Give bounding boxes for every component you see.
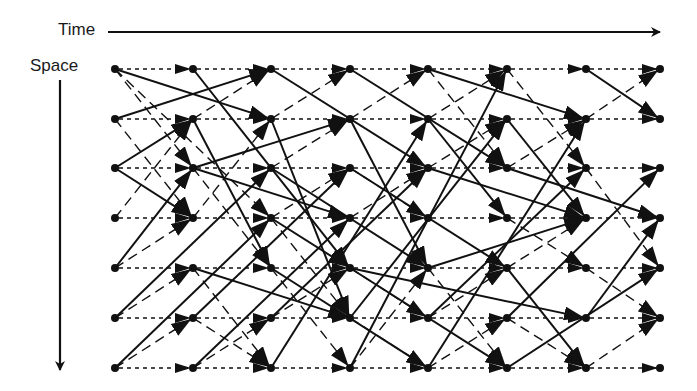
- grid-node: [582, 314, 590, 322]
- grid-node: [582, 115, 590, 123]
- solid-arrow: [271, 218, 347, 266]
- grid-node: [189, 264, 197, 272]
- grid-node: [111, 364, 119, 372]
- grid-node: [582, 264, 590, 272]
- grid-node: [503, 65, 511, 73]
- dashed-arrow: [428, 270, 504, 318]
- solid-arrow: [115, 170, 191, 268]
- dashed-arrow: [271, 170, 347, 218]
- grid-node: [189, 65, 197, 73]
- dashed-arrow: [115, 320, 190, 368]
- grid-node: [582, 214, 590, 222]
- grid-node: [656, 264, 664, 272]
- solid-arrow: [507, 268, 584, 366]
- dashed-arrow: [350, 270, 426, 368]
- grid-node: [346, 314, 354, 322]
- dashed-arrow: [193, 71, 268, 119]
- grid-node: [346, 65, 354, 73]
- grid-node: [111, 314, 119, 322]
- grid-node: [111, 264, 119, 272]
- solid-arrow: [115, 220, 269, 368]
- solid-arrow: [271, 119, 349, 315]
- grid-node: [503, 264, 511, 272]
- grid-node: [111, 115, 119, 123]
- solid-arrow: [428, 69, 583, 118]
- dashed-arrow: [193, 320, 268, 368]
- grid-node: [267, 264, 275, 272]
- grid-node: [656, 214, 664, 222]
- dashed-arrow: [350, 71, 425, 119]
- grid-node: [424, 364, 432, 372]
- solid-arrow: [115, 121, 190, 168]
- dashed-arrow: [507, 121, 583, 168]
- grid-node: [503, 164, 511, 172]
- grid-node: [346, 364, 354, 372]
- dashed-arrow: [115, 69, 269, 216]
- solid-arrow: [586, 220, 658, 318]
- dashed-arrow: [193, 121, 269, 218]
- solid-arrow: [350, 268, 583, 317]
- grid-node: [189, 214, 197, 222]
- dashed-arrow: [507, 69, 584, 166]
- grid-node: [424, 314, 432, 322]
- dashed-arrow: [586, 71, 658, 119]
- dashed-arrow: [193, 318, 268, 366]
- grid-node: [656, 364, 664, 372]
- grid-node: [424, 65, 432, 73]
- dashed-arrow: [428, 69, 505, 166]
- grid-node: [111, 214, 119, 222]
- solid-arrow: [193, 268, 347, 317]
- dashed-arrow: [115, 121, 191, 218]
- dashed-arrow: [271, 121, 347, 168]
- grid-node: [189, 364, 197, 372]
- grid-node: [424, 164, 432, 172]
- grid-node: [503, 314, 511, 322]
- grid-node: [267, 314, 275, 322]
- grid-node: [656, 314, 664, 322]
- grid-node: [346, 115, 354, 123]
- grid-node: [267, 214, 275, 222]
- grid-node: [582, 65, 590, 73]
- grid-node: [111, 65, 119, 73]
- grid-node: [267, 115, 275, 123]
- solid-arrow: [193, 220, 348, 368]
- grid-node: [424, 214, 432, 222]
- dashed-arrow: [586, 320, 658, 368]
- dashed-arrow: [428, 320, 504, 368]
- grid-node: [424, 115, 432, 123]
- dashed-arrow: [350, 170, 425, 218]
- grid-node: [189, 164, 197, 172]
- solid-arrow: [115, 170, 269, 318]
- grid-node: [503, 115, 511, 123]
- grid-node: [503, 214, 511, 222]
- solid-arrow: [271, 122, 426, 368]
- grid-node: [424, 264, 432, 272]
- grid-node: [267, 164, 275, 172]
- dashed-arrow: [271, 71, 347, 119]
- spacetime-diagram: [0, 0, 697, 391]
- grid-node: [656, 164, 664, 172]
- grid-node: [267, 364, 275, 372]
- grid-node: [503, 364, 511, 372]
- grid-node: [346, 264, 354, 272]
- grid-node: [582, 164, 590, 172]
- grid-node: [189, 115, 197, 123]
- solid-arrow: [193, 120, 347, 168]
- dashed-arrow: [193, 168, 269, 266]
- solid-arrow: [507, 119, 584, 216]
- solid-arrow: [115, 168, 190, 216]
- solid-arrow: [586, 69, 658, 117]
- grid-node: [267, 65, 275, 73]
- grid-node: [189, 314, 197, 322]
- grid-node: [346, 164, 354, 172]
- dashed-arrow: [428, 121, 504, 168]
- grid-node: [111, 164, 119, 172]
- dashed-arrow: [115, 69, 191, 166]
- dashed-arrow: [115, 220, 190, 268]
- dashed-arrow: [586, 168, 658, 266]
- grid-node: [656, 65, 664, 73]
- grid-node: [656, 115, 664, 123]
- solid-arrow: [428, 119, 505, 216]
- grid-node: [582, 364, 590, 372]
- grid-node: [346, 214, 354, 222]
